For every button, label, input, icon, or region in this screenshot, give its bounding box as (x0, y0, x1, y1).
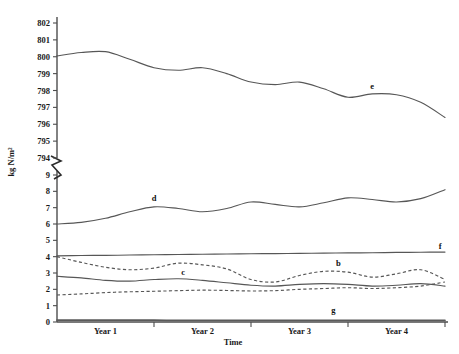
y-tick-label: 8 (46, 186, 50, 196)
y-tick-label: 0 (46, 317, 50, 327)
series-line-b (57, 257, 445, 283)
axes (51, 17, 448, 322)
y-axis-upper-ticks: 794795796797798799800801802 (37, 18, 57, 163)
y-tick-label: 802 (37, 18, 50, 28)
y-tick-label: 798 (37, 86, 50, 96)
y-axis-lower-ticks: 0123456789 (46, 170, 57, 327)
x-tick-label: Year 3 (288, 326, 311, 336)
x-axis-ticks: Year 1Year 2Year 3Year 4 (94, 322, 445, 336)
y-tick-label: 795 (37, 136, 50, 146)
series-label-b: b (336, 258, 341, 268)
x-tick-label: Year 2 (191, 326, 214, 336)
line-chart: 7947957967977987998008018020123456789kg … (0, 0, 459, 354)
y-tick-label: 800 (37, 52, 50, 62)
series-line-c (57, 276, 445, 286)
chart-figure: 7947957967977987998008018020123456789kg … (0, 0, 459, 354)
y-tick-label: 797 (37, 102, 51, 112)
y-tick-label: 4 (46, 252, 51, 262)
series-label-c: c (181, 267, 185, 277)
series-line-a (57, 282, 445, 295)
y-tick-label: 7 (46, 203, 51, 213)
x-axis-title: Time (224, 337, 243, 347)
series-label-d: d (152, 193, 157, 203)
y-tick-label: 801 (37, 35, 50, 45)
y-tick-label: 6 (46, 219, 50, 229)
y-tick-label: 3 (46, 268, 50, 278)
y-tick-label: 796 (37, 119, 50, 129)
y-tick-label: 794 (37, 153, 51, 163)
x-tick-label: Year 1 (94, 326, 117, 336)
series-label-g: g (331, 305, 336, 315)
data-series-group (57, 51, 445, 320)
y-tick-label: 2 (46, 284, 50, 294)
series-line-e (57, 51, 445, 117)
x-tick-label: Year 4 (385, 326, 409, 336)
y-tick-label: 1 (46, 301, 50, 311)
series-line-f (57, 252, 445, 256)
y-axis-title: kg N/m² (6, 147, 16, 177)
series-line-d (57, 190, 445, 224)
y-tick-label: 799 (37, 69, 50, 79)
y-tick-label: 9 (46, 170, 50, 180)
series-label-e: e (370, 81, 374, 91)
y-tick-label: 5 (46, 235, 50, 245)
series-label-f: f (439, 241, 442, 251)
